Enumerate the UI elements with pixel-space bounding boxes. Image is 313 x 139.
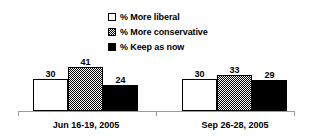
plot-area: 30 41 24 30 33 29: [0, 58, 313, 112]
bar-jun-keep-as-now: 24: [103, 85, 138, 111]
bar-value-jun-keep-as-now: 24: [115, 75, 125, 85]
bar-value-sep-keep-as-now: 29: [264, 70, 274, 80]
bar-sep-keep-as-now: 29: [252, 80, 287, 111]
bar-jun-more-liberal: 30: [33, 79, 68, 111]
legend-swatch-more-conservative: [108, 28, 116, 36]
bar-jun-more-conservative: 41: [68, 67, 103, 111]
axis-tick-left: [18, 111, 19, 116]
bar-value-jun-more-conservative: 41: [80, 57, 90, 67]
legend-item-more-liberal: % More liberal: [108, 10, 248, 23]
category-label-sep-26-28-2005: Sep 26-28, 2005: [182, 120, 288, 131]
legend-item-more-conservative: % More conservative: [108, 25, 248, 38]
legend-label-more-liberal: % More liberal: [120, 12, 180, 22]
legend-label-more-conservative: % More conservative: [120, 27, 208, 37]
bar-sep-more-liberal: 30: [182, 79, 217, 111]
bar-sep-more-conservative: 33: [217, 75, 252, 111]
axis-tick-right: [294, 111, 295, 116]
bar-value-jun-more-liberal: 30: [45, 69, 55, 79]
legend-item-keep-as-now: % Keep as now: [108, 40, 248, 53]
chart-legend: % More liberal % More conservative % Kee…: [108, 10, 248, 55]
bar-value-sep-more-liberal: 30: [194, 69, 204, 79]
bar-group-sep-26-28-2005: 30 33 29: [182, 58, 288, 111]
axis-tick-middle: [156, 111, 157, 116]
bar-chart: % More liberal % More conservative % Kee…: [0, 0, 313, 139]
bar-group-jun-16-19-2005: 30 41 24: [33, 58, 139, 111]
bar-value-sep-more-conservative: 33: [229, 65, 239, 75]
legend-label-keep-as-now: % Keep as now: [120, 42, 184, 52]
legend-swatch-more-liberal: [108, 13, 116, 21]
category-label-jun-16-19-2005: Jun 16-19, 2005: [33, 120, 139, 131]
legend-swatch-keep-as-now: [108, 43, 116, 51]
